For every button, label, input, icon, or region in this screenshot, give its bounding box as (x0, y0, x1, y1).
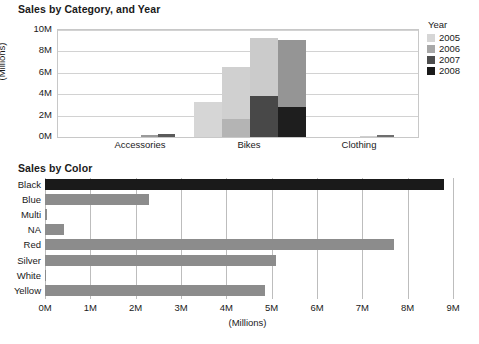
color-y-axis: Black Blue Multi NA Red Silver White Yel… (0, 178, 41, 299)
color-plot-area (45, 178, 453, 299)
gridline-10m (58, 30, 418, 31)
bar-bikes-2008 (278, 40, 306, 137)
y-tick-0m: 0M (39, 131, 52, 141)
bar-segment-dark (141, 135, 158, 137)
bar-silver (45, 255, 276, 266)
legend-swatch-2006 (427, 45, 435, 53)
bar-accessories-2007 (141, 135, 158, 137)
y-label-na: NA (28, 224, 41, 235)
legend-swatch-2008 (427, 67, 435, 75)
y-label-white: White (17, 270, 41, 281)
legend-label-2007: 2007 (439, 54, 460, 65)
bar-na (45, 224, 64, 235)
y-label-silver: Silver (17, 255, 41, 266)
bar-segment-2007-base (250, 96, 278, 137)
y-label-multi: Multi (21, 209, 41, 220)
bar-blue (45, 194, 149, 205)
legend-swatch-2007 (427, 56, 435, 64)
bar-accessories-2008 (158, 134, 175, 137)
x-tick-1m: 1M (84, 302, 97, 313)
legend-item-2007[interactable]: 2007 (427, 54, 479, 65)
y-label-blue: Blue (22, 194, 41, 205)
x-tick-4m: 4M (220, 302, 233, 313)
bar-bikes-2005 (194, 102, 222, 137)
legend-label-2005: 2005 (439, 32, 460, 43)
category-x-axis: Accessories Bikes Clothing (57, 139, 417, 155)
x-tick-accessories: Accessories (114, 139, 165, 150)
x-tick-5m: 5M (265, 302, 278, 313)
x-tick-6m: 6M (310, 302, 323, 313)
legend-swatch-2005 (427, 34, 435, 42)
y-tick-8m: 8M (39, 45, 52, 55)
legend-label-2006: 2006 (439, 43, 460, 54)
category-plot-area (57, 29, 419, 138)
category-y-axis: 10M 8M 6M 4M 2M 0M (Millions) (0, 0, 55, 158)
category-y-axis-title: (Millions) (0, 43, 7, 81)
gridline-9m (453, 178, 454, 299)
y-tick-4m: 4M (39, 88, 52, 98)
gridline-8m (58, 51, 418, 52)
bar-white (45, 270, 46, 281)
x-tick-8m: 8M (401, 302, 414, 313)
bar-clothing-2007 (360, 136, 377, 137)
legend-title: Year (427, 19, 479, 30)
legend-label-2008: 2008 (439, 65, 460, 76)
x-tick-bikes: Bikes (237, 139, 260, 150)
y-label-red: Red (24, 239, 41, 250)
bar-bikes-2007 (250, 38, 278, 138)
x-tick-clothing: Clothing (342, 139, 377, 150)
x-tick-3m: 3M (174, 302, 187, 313)
bar-red (45, 239, 394, 250)
color-x-axis: 0M 1M 2M 3M 4M 5M 6M 7M 8M 9M (45, 302, 453, 316)
year-legend: Year 2005 2006 2007 2008 (427, 19, 479, 76)
x-tick-2m: 2M (129, 302, 142, 313)
y-label-yellow: Yellow (14, 285, 41, 296)
chart-title-color: Sales by Color (18, 162, 92, 174)
x-tick-9m: 9M (446, 302, 459, 313)
bar-segment-dark (158, 134, 175, 137)
y-tick-2m: 2M (39, 110, 52, 120)
color-x-axis-title-text: (Millions) (213, 317, 267, 328)
bar-yellow (45, 285, 265, 296)
x-tick-7m: 7M (356, 302, 369, 313)
color-bars (45, 178, 453, 299)
legend-item-2008[interactable]: 2008 (427, 65, 479, 76)
x-tick-0m: 0M (38, 302, 51, 313)
bar-bikes-2006 (222, 67, 250, 137)
y-tick-10m: 10M (34, 24, 52, 34)
sales-by-category-chart: Sales by Category, and Year 10M 8M 6M 4M… (0, 0, 479, 158)
bar-segment-2008-base (278, 107, 306, 137)
bar-clothing-2008 (377, 135, 394, 137)
y-label-black: Black (18, 179, 41, 190)
color-x-axis-title: (Millions) (0, 317, 479, 328)
bar-multi (45, 209, 47, 220)
sales-by-color-chart: Sales by Color Black Blue Multi NA Red S… (0, 160, 479, 344)
bar-black (45, 179, 444, 190)
y-tick-6m: 6M (39, 67, 52, 77)
legend-item-2006[interactable]: 2006 (427, 43, 479, 54)
legend-item-2005[interactable]: 2005 (427, 32, 479, 43)
bar-segment-2006-base (222, 119, 250, 137)
